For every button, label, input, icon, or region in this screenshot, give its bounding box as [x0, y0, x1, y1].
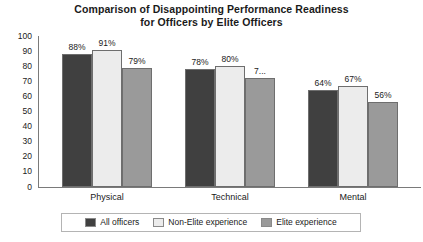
legend-label-elite: Elite experience — [276, 218, 336, 227]
legend-swatch-all-officers — [85, 218, 96, 227]
y-tick-label-80: 80 — [0, 62, 32, 71]
bar-physical-non-elite[interactable] — [92, 50, 122, 187]
bar-technical-all-officers[interactable] — [185, 69, 215, 187]
legend-label-all-officers: All officers — [100, 218, 139, 227]
y-tick-label-60: 60 — [0, 92, 32, 101]
bar-label-mental-non-elite: 67% — [336, 75, 370, 84]
y-tick-label-40: 40 — [0, 122, 32, 131]
chart-container: Comparison of Disappointing Performance … — [0, 0, 423, 242]
chart-title: Comparison of Disappointing Performance … — [0, 3, 423, 29]
bar-mental-all-officers[interactable] — [308, 90, 338, 187]
y-tick-label-20: 20 — [0, 152, 32, 161]
bar-label-technical-non-elite: 80% — [213, 55, 247, 64]
bar-label-mental-all-officers: 64% — [306, 79, 340, 88]
bar-mental-non-elite[interactable] — [338, 86, 368, 187]
bar-group-mental — [308, 36, 398, 187]
bar-label-physical-non-elite: 91% — [90, 39, 124, 48]
legend-item-non-elite[interactable]: Non-Elite experience — [153, 218, 247, 227]
legend-item-elite[interactable]: Elite experience — [261, 218, 336, 227]
bar-label-mental-elite: 56% — [366, 91, 400, 100]
x-category-label-physical: Physical — [47, 192, 167, 202]
chart-legend: All officers Non-Elite experience Elite … — [61, 213, 361, 232]
y-tick-label-10: 10 — [0, 167, 32, 176]
legend-swatch-elite — [261, 218, 272, 227]
bar-technical-non-elite[interactable] — [215, 66, 245, 187]
legend-label-non-elite: Non-Elite experience — [168, 218, 247, 227]
bar-label-technical-all-officers: 78% — [183, 58, 217, 67]
y-tick-label-0: 0 — [0, 183, 32, 192]
bar-label-technical-elite: 7... — [243, 67, 277, 76]
legend-item-all-officers[interactable]: All officers — [85, 218, 139, 227]
bar-label-physical-all-officers: 88% — [60, 43, 94, 52]
chart-title-line-2: for Officers by Elite Officers — [0, 16, 423, 29]
y-tick-label-90: 90 — [0, 47, 32, 56]
bar-physical-all-officers[interactable] — [62, 54, 92, 187]
x-category-label-mental: Mental — [293, 192, 413, 202]
x-category-label-technical: Technical — [170, 192, 290, 202]
bar-mental-elite[interactable] — [368, 102, 398, 187]
y-tick-label-30: 30 — [0, 137, 32, 146]
legend-swatch-non-elite — [153, 218, 164, 227]
chart-title-line-1: Comparison of Disappointing Performance … — [0, 3, 423, 16]
y-tick-label-50: 50 — [0, 107, 32, 116]
bar-technical-elite[interactable] — [245, 78, 275, 187]
bar-label-physical-elite: 79% — [120, 57, 154, 66]
y-tick-label-100: 100 — [0, 32, 32, 41]
bar-physical-elite[interactable] — [122, 68, 152, 187]
y-tick-label-70: 70 — [0, 77, 32, 86]
x-axis-line — [38, 187, 421, 188]
